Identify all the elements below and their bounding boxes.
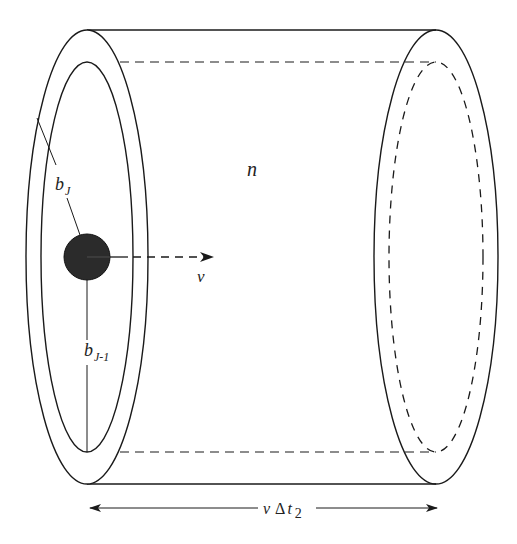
outer-radius-symbol: b: [55, 174, 64, 194]
cylindrical-shell-diagram: n v bJ bJ-1 vΔt2: [0, 0, 517, 544]
length-delta: Δ: [275, 500, 285, 517]
velocity-label: v: [197, 267, 205, 286]
right-outer-ellipse: [374, 30, 498, 484]
outer-radius-subscript: J: [65, 184, 71, 198]
length-label: vΔt2: [263, 500, 302, 521]
length-subscript: 2: [295, 506, 302, 521]
density-label: n: [247, 158, 257, 180]
inner-radius-subscript: J-1: [94, 350, 109, 364]
inner-radius-symbol: b: [84, 340, 93, 360]
right-inner-ellipse-dashed: [389, 62, 483, 452]
length-v: v: [263, 500, 271, 517]
length-t: t: [287, 500, 292, 517]
